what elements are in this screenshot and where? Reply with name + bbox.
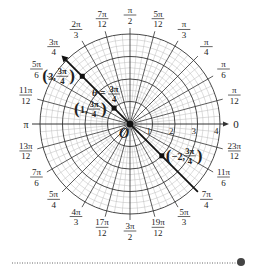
svg-text:π: π xyxy=(232,85,237,95)
angle-label-75: 5π12 xyxy=(152,9,165,30)
svg-text:3π: 3π xyxy=(90,99,99,109)
angle-label-255: 17π12 xyxy=(95,217,109,238)
svg-text:4: 4 xyxy=(204,47,209,57)
angle-label-300: 5π3 xyxy=(178,207,191,228)
svg-text:3π: 3π xyxy=(185,146,194,156)
svg-text:5π: 5π xyxy=(153,9,163,19)
svg-text:12: 12 xyxy=(153,19,162,29)
svg-text:23π: 23π xyxy=(228,141,242,151)
svg-text:5π: 5π xyxy=(49,189,59,199)
angle-label-270: 3π2 xyxy=(124,221,137,242)
svg-text:12: 12 xyxy=(21,96,30,106)
svg-text:3π: 3π xyxy=(58,66,67,76)
angle-label-120: 2π3 xyxy=(70,19,83,40)
svg-text:π: π xyxy=(128,5,133,15)
svg-text:−2,: −2, xyxy=(172,151,186,162)
angle-label-60: π3 xyxy=(178,19,191,40)
point-2: (−2,3π4) xyxy=(159,146,202,166)
svg-text:12: 12 xyxy=(153,228,162,238)
svg-text:π: π xyxy=(23,119,28,130)
angle-label-30: π6 xyxy=(217,59,230,80)
point-marker xyxy=(159,153,164,158)
svg-text:6: 6 xyxy=(34,70,39,80)
axis-arrow-icon xyxy=(223,122,229,127)
svg-text:0: 0 xyxy=(233,118,239,130)
svg-text:2: 2 xyxy=(128,16,133,26)
angle-label-195: 13π12 xyxy=(19,141,33,162)
point-0: (3,3π4) xyxy=(42,66,85,86)
svg-text:4: 4 xyxy=(92,109,97,119)
svg-text:): ) xyxy=(197,146,203,165)
angle-label-15: π12 xyxy=(228,85,241,106)
axis-tick-1: 1 xyxy=(147,126,152,136)
svg-text:3: 3 xyxy=(74,30,79,40)
svg-text:1,: 1, xyxy=(80,104,88,115)
svg-text:7π: 7π xyxy=(98,9,108,19)
svg-text:6: 6 xyxy=(221,70,226,80)
angle-label-105: 7π12 xyxy=(96,9,109,30)
svg-text:4: 4 xyxy=(60,76,65,86)
angle-label-345: 23π12 xyxy=(228,141,242,162)
angle-label-90: π2 xyxy=(124,5,137,26)
svg-text:12: 12 xyxy=(98,228,107,238)
svg-text:7π: 7π xyxy=(202,189,212,199)
polar-grid-canvas: 1234O0π12π6π4π35π12π27π122π33π45π611π12π… xyxy=(0,0,257,269)
angle-label-180: π xyxy=(23,119,28,130)
pole-label: O xyxy=(119,126,129,141)
angle-label-210: 7π6 xyxy=(30,167,43,188)
svg-text:4: 4 xyxy=(204,200,209,210)
axis-tick-4: 4 xyxy=(214,126,219,136)
angle-label-240: 4π3 xyxy=(70,207,83,228)
svg-text:12: 12 xyxy=(230,151,239,161)
axis-tick-2: 2 xyxy=(169,126,174,136)
svg-text:4: 4 xyxy=(51,200,56,210)
angle-label-135: 3π4 xyxy=(47,37,60,58)
svg-text:12: 12 xyxy=(230,96,239,106)
svg-text:4π: 4π xyxy=(71,207,81,217)
svg-text:2π: 2π xyxy=(71,19,81,29)
bottom-rule xyxy=(12,258,245,266)
svg-text:7π: 7π xyxy=(32,167,42,177)
svg-text:π: π xyxy=(221,59,226,69)
svg-text:): ) xyxy=(101,99,107,118)
point-marker xyxy=(80,74,85,79)
svg-text:4: 4 xyxy=(112,94,117,104)
svg-text:4: 4 xyxy=(188,156,193,166)
svg-text:3π: 3π xyxy=(110,84,119,94)
svg-text:6: 6 xyxy=(34,178,39,188)
svg-text:6: 6 xyxy=(221,178,226,188)
svg-text:12: 12 xyxy=(98,19,107,29)
svg-text:5π: 5π xyxy=(32,59,42,69)
angle-label-285: 19π12 xyxy=(151,217,165,238)
angle-label-330: 11π6 xyxy=(217,167,231,188)
point-1: (1,3π4) xyxy=(74,99,117,119)
angle-label-0: 0 xyxy=(233,118,239,130)
svg-text:17π: 17π xyxy=(95,217,109,227)
svg-text:2: 2 xyxy=(128,232,133,242)
svg-text:3π: 3π xyxy=(125,221,135,231)
angle-label-225: 5π4 xyxy=(47,189,60,210)
point-marker xyxy=(112,106,117,111)
svg-text:3: 3 xyxy=(182,30,187,40)
angle-label-45: π4 xyxy=(200,37,213,58)
svg-text:19π: 19π xyxy=(151,217,165,227)
svg-text:θ =: θ = xyxy=(92,87,106,98)
svg-text:3π: 3π xyxy=(49,37,59,47)
axis-tick-3: 3 xyxy=(192,126,197,136)
svg-text:4: 4 xyxy=(51,47,56,57)
rule-end-dot xyxy=(237,258,245,266)
svg-text:π: π xyxy=(204,37,209,47)
svg-text:3,: 3, xyxy=(48,71,56,82)
angle-label-150: 5π6 xyxy=(30,59,43,80)
svg-text:π: π xyxy=(182,19,187,29)
svg-text:): ) xyxy=(69,66,75,85)
angle-label-315: 7π4 xyxy=(200,189,213,210)
svg-text:3: 3 xyxy=(182,217,187,227)
svg-text:13π: 13π xyxy=(19,141,33,151)
angle-label-165: 11π12 xyxy=(19,85,33,106)
svg-text:12: 12 xyxy=(21,151,30,161)
svg-text:11π: 11π xyxy=(19,85,33,95)
svg-text:3: 3 xyxy=(74,217,79,227)
svg-text:11π: 11π xyxy=(217,167,231,177)
polar-diagram: 1234O0π12π6π4π35π12π27π122π33π45π611π12π… xyxy=(0,0,257,269)
